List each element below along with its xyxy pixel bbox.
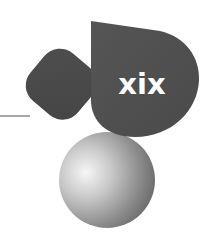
chapter-opener-illustration: xix bbox=[0, 0, 220, 250]
chapter-numeral: xix bbox=[113, 67, 171, 101]
sphere-shape bbox=[59, 132, 155, 228]
decorative-shapes bbox=[0, 0, 220, 250]
